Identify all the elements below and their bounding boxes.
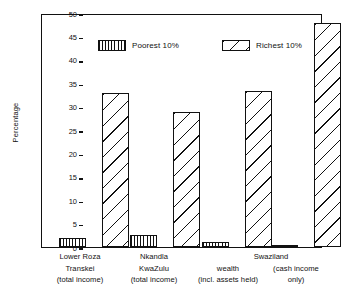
y-tick-label: 5 — [73, 220, 77, 229]
y-axis-title: Percentage — [11, 73, 20, 173]
y-tick-mark — [79, 61, 83, 62]
x-label-line: Lower Roza — [41, 251, 119, 263]
x-label-line: (total income) — [41, 274, 119, 286]
x-label-line: Nkandla — [117, 251, 191, 263]
y-tick-label: 40 — [69, 56, 77, 65]
y-tick-mark — [79, 131, 83, 132]
bar-richest-2[interactable] — [245, 91, 272, 247]
x-label-line: (incl. assets held) — [185, 274, 271, 286]
bar-richest-3[interactable] — [314, 23, 341, 247]
y-tick-mark — [79, 108, 83, 109]
y-tick-mark — [79, 202, 83, 203]
x-label-line: Transkei — [41, 263, 119, 275]
x-label-line: (cash income — [263, 263, 329, 275]
y-tick-mark — [79, 85, 83, 86]
bar-poorest-3[interactable] — [271, 245, 298, 247]
chart-legend: Poorest 10% Richest 10% — [83, 29, 345, 63]
y-tick-mark — [79, 225, 83, 226]
x-label-line: (total income) — [117, 274, 191, 286]
x-label-line: KwaZulu — [117, 263, 191, 275]
x-label-line: wealth — [185, 263, 271, 275]
y-tick-label: 30 — [69, 103, 77, 112]
legend-swatch-poorest-icon — [98, 40, 126, 51]
y-tick-mark — [79, 155, 83, 156]
y-tick-label: 10 — [69, 197, 77, 206]
y-tick-mark — [79, 14, 83, 15]
y-tick-label: 15 — [69, 173, 77, 182]
y-tick-label: 35 — [69, 80, 77, 89]
bar-poorest-2[interactable] — [202, 242, 229, 247]
plot-area: 05101520253035404550 Poorest 10% Richest… — [41, 14, 322, 248]
y-tick-label: 50 — [69, 10, 77, 19]
y-tick-label: 45 — [69, 33, 77, 42]
bar-richest-1[interactable] — [173, 112, 200, 247]
x-axis-label-group-2: wealth (incl. assets held) — [185, 263, 271, 286]
x-axis-label-group-3: (cash income only) — [263, 263, 329, 286]
x-axis-labels: Swaziland Lower Roza Transkei (total inc… — [41, 250, 322, 298]
y-tick-mark — [79, 178, 83, 179]
x-axis-label-group-1: Nkandla KwaZulu (total income) — [117, 251, 191, 286]
legend-label-poorest: Poorest 10% — [132, 41, 179, 50]
bar-poorest-1[interactable] — [130, 235, 157, 247]
legend-swatch-richest-icon — [222, 40, 250, 51]
legend-entry-richest[interactable]: Richest 10% — [222, 40, 302, 51]
bar-richest-0[interactable] — [102, 93, 129, 247]
x-axis-group-header-swaziland: Swaziland — [201, 251, 341, 263]
y-tick-label: 25 — [69, 127, 77, 136]
bar-poorest-0[interactable] — [59, 238, 86, 247]
y-tick-label: 20 — [69, 150, 77, 159]
x-label-line: only) — [263, 274, 329, 286]
y-tick-mark — [79, 38, 83, 39]
x-axis-label-group-0: Lower Roza Transkei (total income) — [41, 251, 119, 286]
legend-entry-poorest[interactable]: Poorest 10% — [98, 40, 179, 51]
legend-label-richest: Richest 10% — [256, 41, 302, 50]
